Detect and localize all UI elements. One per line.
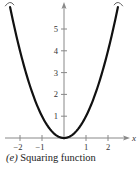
y-tick-label: 5 xyxy=(54,24,58,34)
y-tick-label: 3 xyxy=(54,68,58,78)
x-axis-label: x xyxy=(131,133,136,143)
y-tick-label: 4 xyxy=(54,46,59,56)
x-tick-label: 1 xyxy=(84,142,88,152)
caption-label: (e) xyxy=(6,152,18,163)
x-tick-label: −1 xyxy=(35,142,44,152)
caption-text: Squaring function xyxy=(20,152,96,163)
x-tick-label: −2 xyxy=(13,142,22,152)
left-continuation-arrow-icon xyxy=(5,2,14,6)
figure-caption: (e) Squaring function xyxy=(6,152,96,163)
x-tick-label: 2 xyxy=(106,142,110,152)
y-tick-label: 1 xyxy=(54,111,58,121)
axes: x−2−11212345 xyxy=(5,2,136,152)
y-tick-label: 2 xyxy=(54,89,58,99)
squaring-function-plot: x−2−11212345 xyxy=(0,0,139,171)
right-continuation-arrow-icon xyxy=(114,2,123,6)
